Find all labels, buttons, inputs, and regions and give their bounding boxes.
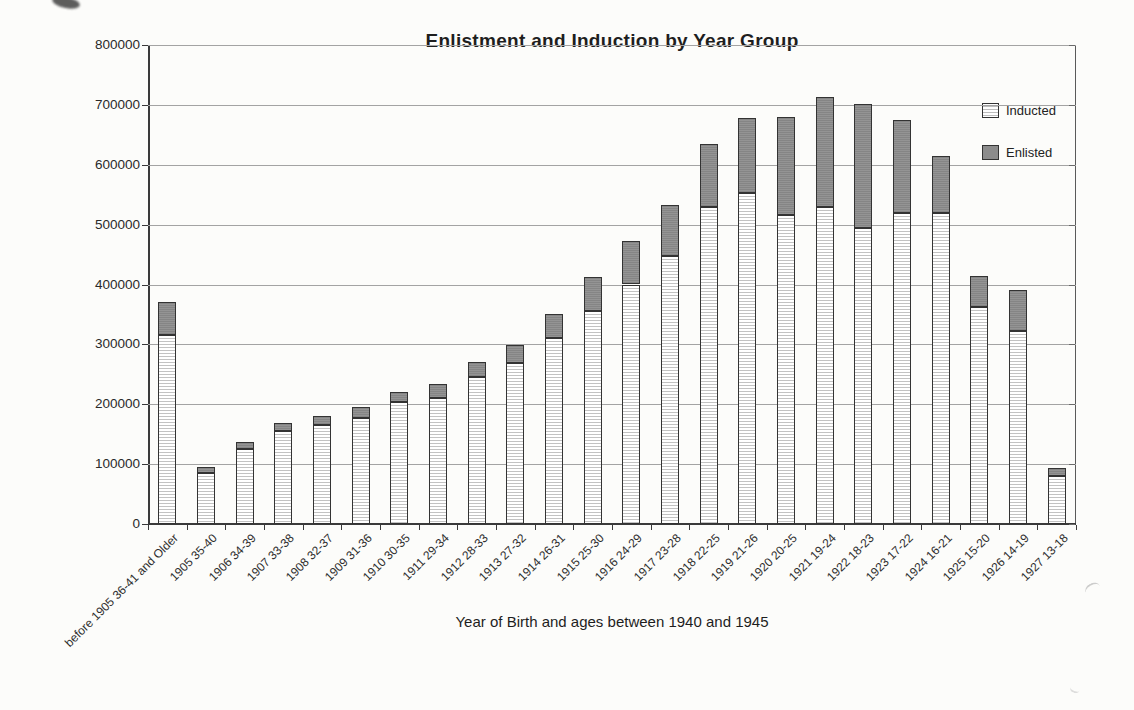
x-tick-mark [148,525,149,530]
bar-segment-inducted [622,285,640,525]
enlisted-swatch-icon [982,145,999,160]
y-tick-mark [142,105,148,106]
bar-segment-enlisted [777,117,795,215]
y-tick-mark [142,404,148,405]
y-tick-label: 600000 [0,157,140,172]
y-tick-label: 200000 [0,396,140,411]
y-tick-label: 0 [0,516,140,531]
y-tick-mark-right [1069,285,1075,286]
bar-segment-inducted [390,402,408,524]
y-tick-mark [142,45,148,46]
bar-segment-enlisted [468,362,486,378]
y-tick-mark-right [1069,165,1075,166]
bar-segment-enlisted [700,144,718,207]
y-tick-mark [142,285,148,286]
bar-segment-inducted [700,207,718,524]
bar-segment-enlisted [545,314,563,339]
y-tick-mark [142,344,148,345]
x-tick-mark [573,525,574,530]
x-tick-mark [767,525,768,530]
x-tick-mark [921,525,922,530]
bar-segment-enlisted [352,407,370,418]
x-tick-mark [960,525,961,530]
x-tick-mark [689,525,690,530]
bar-segment-enlisted [584,277,602,311]
bar-segment-enlisted [506,345,524,363]
bar-segment-enlisted [661,205,679,255]
x-tick-mark [728,525,729,530]
y-tick-mark [142,464,148,465]
bar-segment-enlisted [738,118,756,193]
bar-segment-enlisted [970,276,988,307]
bar-segment-inducted [158,335,176,524]
bar-segment-inducted [1009,331,1027,524]
bar-segment-inducted [932,213,950,524]
bar-segment-enlisted [390,392,408,402]
chart-title: Enlistment and Induction by Year Group [148,30,1076,52]
legend-item-enlisted: Enlisted [982,145,1052,160]
bar-segment-enlisted [1048,468,1066,476]
bar-segment-inducted [429,398,447,524]
x-tick-mark [496,525,497,530]
y-tick-label: 500000 [0,217,140,232]
bar-segment-inducted [274,431,292,524]
y-tick-label: 400000 [0,277,140,292]
gridline [148,105,1076,106]
scan-smudge-artifact [1069,684,1081,695]
bar-segment-inducted [352,418,370,524]
bar-segment-enlisted [854,104,872,228]
bar-segment-enlisted [816,97,834,207]
x-tick-mark [805,525,806,530]
x-tick-mark [303,525,304,530]
y-tick-mark-right [1069,344,1075,345]
y-tick-mark [142,165,148,166]
bar-segment-enlisted [429,384,447,398]
x-tick-mark [1076,525,1077,530]
x-tick-mark [535,525,536,530]
bar-segment-inducted [236,449,254,524]
bar-segment-inducted [584,311,602,524]
x-tick-mark [999,525,1000,530]
x-tick-mark [187,525,188,530]
scan-smudge-artifact [1083,580,1103,599]
x-tick-mark [883,525,884,530]
bar-segment-inducted [854,228,872,524]
y-tick-mark-right [1069,404,1075,405]
bar-segment-inducted [468,377,486,524]
x-tick-mark [651,525,652,530]
bar-segment-enlisted [1009,290,1027,331]
bar-segment-inducted [816,207,834,524]
bar-segment-enlisted [158,302,176,335]
bar-segment-inducted [313,425,331,524]
bar-segment-inducted [738,193,756,524]
bar-segment-enlisted [893,120,911,213]
scanned-chart-page: Enlistment and Induction by Year Group I… [0,0,1134,710]
y-tick-mark-right [1069,45,1075,46]
y-tick-label: 700000 [0,97,140,112]
bar-segment-inducted [197,473,215,524]
y-tick-mark-right [1069,524,1075,525]
bar-segment-enlisted [622,241,640,284]
bar-segment-enlisted [313,416,331,425]
y-tick-label: 800000 [0,37,140,52]
bar-segment-enlisted [236,442,254,449]
y-tick-label: 100000 [0,456,140,471]
y-tick-mark-right [1069,225,1075,226]
bar-segment-inducted [545,338,563,524]
scan-smudge-artifact [51,0,81,11]
x-tick-mark [419,525,420,530]
bar-segment-enlisted [274,423,292,431]
x-tick-mark [1037,525,1038,530]
bar-segment-inducted [893,213,911,524]
y-tick-mark-right [1069,464,1075,465]
x-tick-mark [457,525,458,530]
y-tick-label: 300000 [0,336,140,351]
bar-segment-inducted [1048,476,1066,524]
legend-label-enlisted: Enlisted [1006,145,1052,160]
x-tick-mark [612,525,613,530]
bar-segment-inducted [506,363,524,524]
x-tick-mark [380,525,381,530]
bar-segment-enlisted [932,156,950,213]
bar-segment-inducted [970,307,988,524]
bar-segment-inducted [777,215,795,524]
